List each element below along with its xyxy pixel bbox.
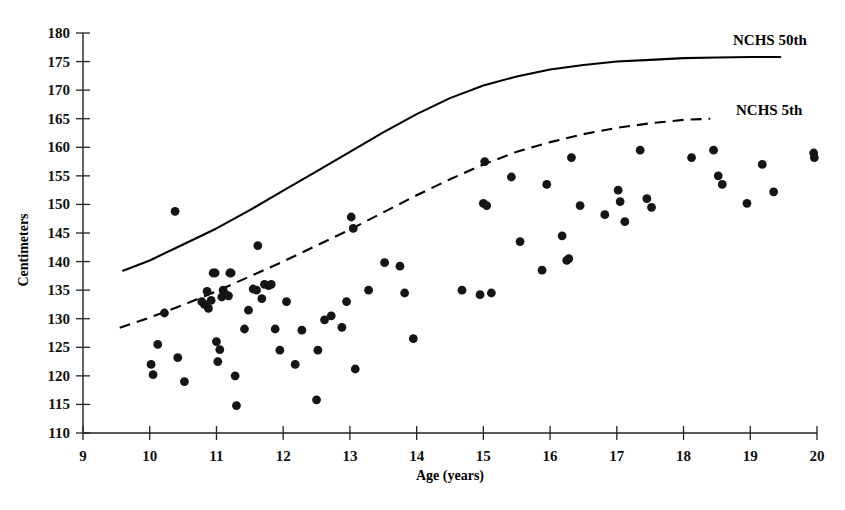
x-tick-label: 9	[79, 448, 87, 464]
data-point	[516, 237, 525, 246]
y-tick-label: 130	[48, 311, 71, 327]
y-tick-label: 125	[48, 339, 71, 355]
data-point	[313, 346, 322, 355]
data-point	[758, 160, 767, 169]
x-tick-label: 12	[276, 448, 291, 464]
data-point	[614, 186, 623, 195]
data-point	[576, 201, 585, 210]
data-point	[400, 289, 409, 298]
x-tick-label: 14	[409, 448, 425, 464]
data-point	[380, 258, 389, 267]
y-tick-label: 155	[48, 168, 71, 184]
data-point	[212, 337, 221, 346]
x-tick-label: 19	[743, 448, 758, 464]
data-point	[687, 153, 696, 162]
y-tick-label: 175	[48, 54, 71, 70]
data-point	[558, 231, 567, 240]
y-tick-label: 140	[48, 254, 71, 270]
x-axis-group: 91011121314151617181920	[79, 426, 824, 464]
data-point	[173, 353, 182, 362]
data-point	[253, 241, 262, 250]
data-point	[149, 370, 158, 379]
data-point	[211, 269, 220, 278]
data-points-group	[147, 146, 819, 410]
data-point	[160, 309, 169, 318]
data-point	[538, 266, 547, 275]
data-point	[480, 157, 489, 166]
data-point	[291, 360, 300, 369]
data-point	[227, 269, 236, 278]
data-point	[636, 146, 645, 155]
x-tick-label: 16	[543, 448, 559, 464]
data-point	[507, 173, 516, 182]
data-point	[213, 357, 222, 366]
data-point	[232, 401, 241, 410]
data-point	[487, 289, 496, 298]
data-point	[231, 371, 240, 380]
data-point	[271, 325, 280, 334]
data-point	[458, 286, 467, 295]
data-point	[349, 224, 358, 233]
x-tick-label: 15	[476, 448, 491, 464]
data-point	[297, 326, 306, 335]
data-point	[338, 323, 347, 332]
x-tick-label: 17	[609, 448, 625, 464]
data-point	[171, 207, 180, 216]
data-point	[647, 203, 656, 212]
x-tick-label: 10	[142, 448, 157, 464]
data-point	[364, 286, 373, 295]
data-point	[204, 304, 213, 313]
curve-nchs-50th	[123, 57, 780, 271]
data-point	[396, 262, 405, 271]
data-point	[224, 291, 233, 300]
data-point	[252, 286, 261, 295]
y-tick-label: 145	[48, 225, 71, 241]
data-point	[542, 180, 551, 189]
y-tick-label: 135	[48, 282, 71, 298]
data-point	[147, 360, 156, 369]
data-point	[620, 217, 629, 226]
y-axis-title: Centimeters	[16, 213, 31, 287]
data-point	[351, 365, 360, 374]
chart-container: 1101151201251301351401451501551601651701…	[0, 0, 845, 510]
data-point	[267, 280, 276, 289]
x-tick-label: 18	[676, 448, 691, 464]
data-point	[257, 294, 266, 303]
data-point	[275, 346, 284, 355]
data-point	[810, 153, 819, 162]
data-point	[482, 201, 491, 210]
x-tick-label: 11	[209, 448, 223, 464]
data-point	[215, 345, 224, 354]
x-tick-label: 20	[810, 448, 825, 464]
y-tick-label: 115	[48, 396, 70, 412]
data-point	[709, 146, 718, 155]
y-tick-label: 160	[48, 139, 71, 155]
x-tick-label: 13	[342, 448, 357, 464]
data-point	[564, 254, 573, 263]
data-point	[714, 171, 723, 180]
data-point	[347, 213, 356, 222]
data-point	[769, 187, 778, 196]
data-point	[240, 325, 249, 334]
data-point	[282, 297, 291, 306]
data-point	[409, 334, 418, 343]
data-point	[718, 180, 727, 189]
data-point	[642, 194, 651, 203]
data-point	[567, 153, 576, 162]
reference-curves	[120, 57, 781, 328]
y-axis-group: 1101151201251301351401451501551601651701…	[48, 25, 91, 441]
data-point	[153, 340, 162, 349]
y-tick-label: 110	[48, 425, 70, 441]
data-point	[743, 199, 752, 208]
series-label-nchs-5th: NCHS 5th	[736, 102, 803, 118]
data-point	[244, 306, 253, 315]
data-point	[203, 287, 212, 296]
data-point	[180, 377, 189, 386]
data-point	[476, 290, 485, 299]
x-axis-title: Age (years)	[416, 468, 484, 484]
data-point	[327, 311, 336, 320]
data-point	[616, 197, 625, 206]
data-point	[207, 296, 216, 305]
y-tick-label: 180	[48, 25, 71, 41]
y-tick-label: 150	[48, 196, 71, 212]
